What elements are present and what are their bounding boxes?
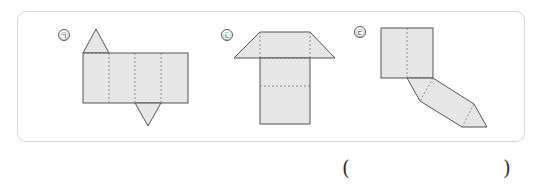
figure-1-label: ㉠ bbox=[60, 32, 68, 41]
answer-open-paren: ( bbox=[342, 156, 350, 180]
figure-3: ㉢ bbox=[355, 27, 488, 128]
figure-2: ㉡ bbox=[222, 30, 336, 125]
figure-3-label: ㉢ bbox=[356, 29, 364, 38]
answer-field[interactable] bbox=[356, 158, 502, 180]
figure-1: ㉠ bbox=[59, 29, 189, 126]
figure-2-label: ㉡ bbox=[223, 32, 231, 41]
answer-close-paren: ) bbox=[503, 156, 511, 180]
